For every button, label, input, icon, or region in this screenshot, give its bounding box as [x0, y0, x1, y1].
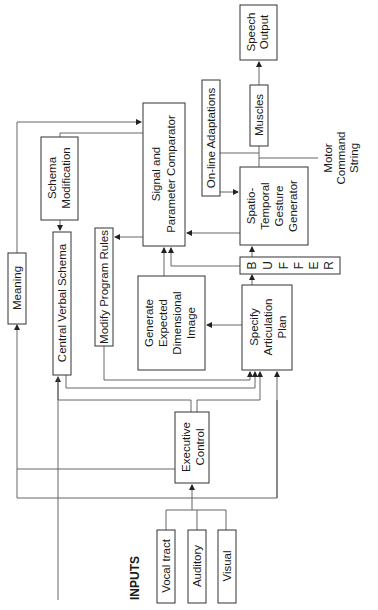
buffer-box: B U F F E R	[240, 257, 340, 274]
svg-text:Schema: Schema	[46, 156, 58, 199]
visual-box: Visual	[218, 530, 236, 603]
signal-comparator-box: Signal and Parameter Comparator	[143, 103, 185, 246]
svg-text:U: U	[261, 261, 275, 270]
svg-text:Command: Command	[335, 131, 347, 184]
svg-text:Vocal tract: Vocal tract	[160, 538, 172, 592]
online-adaptations-label: On-line Adaptations	[205, 88, 217, 189]
auditory-box: Auditory	[188, 530, 206, 603]
speech-output-label-2: Output	[258, 14, 270, 49]
svg-text:Temporal: Temporal	[259, 182, 271, 229]
muscles-label: Muscles	[253, 94, 265, 136]
gesture-generator-box: Spatio- Temporal Gesture Generator	[240, 167, 308, 245]
svg-text:String: String	[348, 143, 360, 173]
svg-text:Generate: Generate	[143, 299, 155, 347]
svg-text:E: E	[307, 261, 321, 269]
executive-control-box: Executive Control	[175, 412, 209, 483]
svg-text:Auditory: Auditory	[191, 545, 203, 587]
svg-text:Dimensional: Dimensional	[171, 291, 183, 354]
schema-modification-box: Schema Modification	[41, 137, 78, 220]
speech-output-box: Speech Output	[240, 5, 277, 60]
online-adaptations-box: On-line Adaptations	[202, 80, 220, 196]
speech-output-label-1: Speech	[245, 12, 257, 51]
svg-text:Plan: Plan	[276, 315, 288, 338]
svg-text:Generator: Generator	[287, 180, 299, 232]
muscles-box: Muscles	[250, 85, 268, 146]
signal-comparator-label-2: Parameter Comparator	[165, 115, 177, 233]
svg-text:Control: Control	[194, 428, 206, 465]
svg-text:Modification: Modification	[60, 147, 72, 208]
signal-comparator-label-1: Signal and	[150, 147, 162, 201]
svg-text:Spatio-: Spatio-	[245, 188, 257, 225]
svg-text:Gesture: Gesture	[273, 186, 285, 227]
svg-text:F: F	[292, 262, 306, 269]
motor-command-string-label: Motor Command String	[322, 131, 360, 184]
speech-production-diagram: Speech Output Muscles On-line Adaptation…	[0, 0, 378, 610]
svg-text:Articulation: Articulation	[262, 299, 274, 356]
expected-image-box: Generate Expected Dimensional Image	[138, 276, 205, 370]
svg-text:Visual: Visual	[221, 550, 233, 581]
modify-program-rules-box: Modify Program Rules	[95, 228, 113, 346]
svg-text:Executive: Executive	[180, 422, 192, 472]
svg-text:Meaning: Meaning	[11, 266, 23, 310]
svg-text:Motor: Motor	[322, 143, 334, 173]
svg-text:Image: Image	[185, 307, 197, 339]
svg-text:R: R	[322, 261, 336, 270]
central-verbal-schema-box: Central Verbal Schema	[53, 232, 71, 375]
vocal-tract-box: Vocal tract	[157, 530, 175, 603]
svg-text:Expected: Expected	[157, 299, 169, 347]
svg-text:Modify Program Rules: Modify Program Rules	[98, 230, 110, 344]
inputs-label: INPUTS	[128, 556, 142, 600]
svg-text:Central Verbal Schema: Central Verbal Schema	[56, 243, 68, 362]
meaning-box: Meaning	[8, 253, 26, 324]
svg-text:B: B	[245, 261, 259, 269]
svg-text:Specify: Specify	[248, 308, 260, 346]
svg-text:F: F	[277, 262, 291, 269]
articulation-plan-box: Specify Articulation Plan	[242, 285, 292, 370]
